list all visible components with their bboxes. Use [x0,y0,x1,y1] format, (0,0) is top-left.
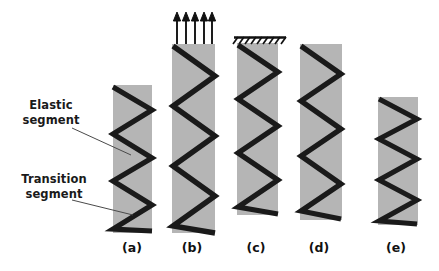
caption-e: (e) [376,240,416,255]
transition-segment-label-line2: segment [8,187,100,202]
caption-b: (b) [172,240,212,255]
column-d [300,44,342,220]
fixed-support-icon [233,37,286,44]
column-c [233,37,286,215]
elastic-segment-label-line1: Elastic [12,98,90,113]
transition-segment-label-line1: Transition [8,172,100,187]
column-e [378,97,418,225]
zigzag-column-diagram [0,0,439,271]
elastic-segment-label: Elastic segment [12,98,90,128]
caption-d: (d) [299,240,339,255]
transition-segment-label: Transition segment [8,172,100,202]
tension-arrows-icon [173,12,215,44]
caption-c: (c) [236,240,276,255]
column-b [172,12,216,233]
column-a [113,85,152,233]
elastic-segment-label-line2: segment [12,113,90,128]
caption-a: (a) [112,240,152,255]
